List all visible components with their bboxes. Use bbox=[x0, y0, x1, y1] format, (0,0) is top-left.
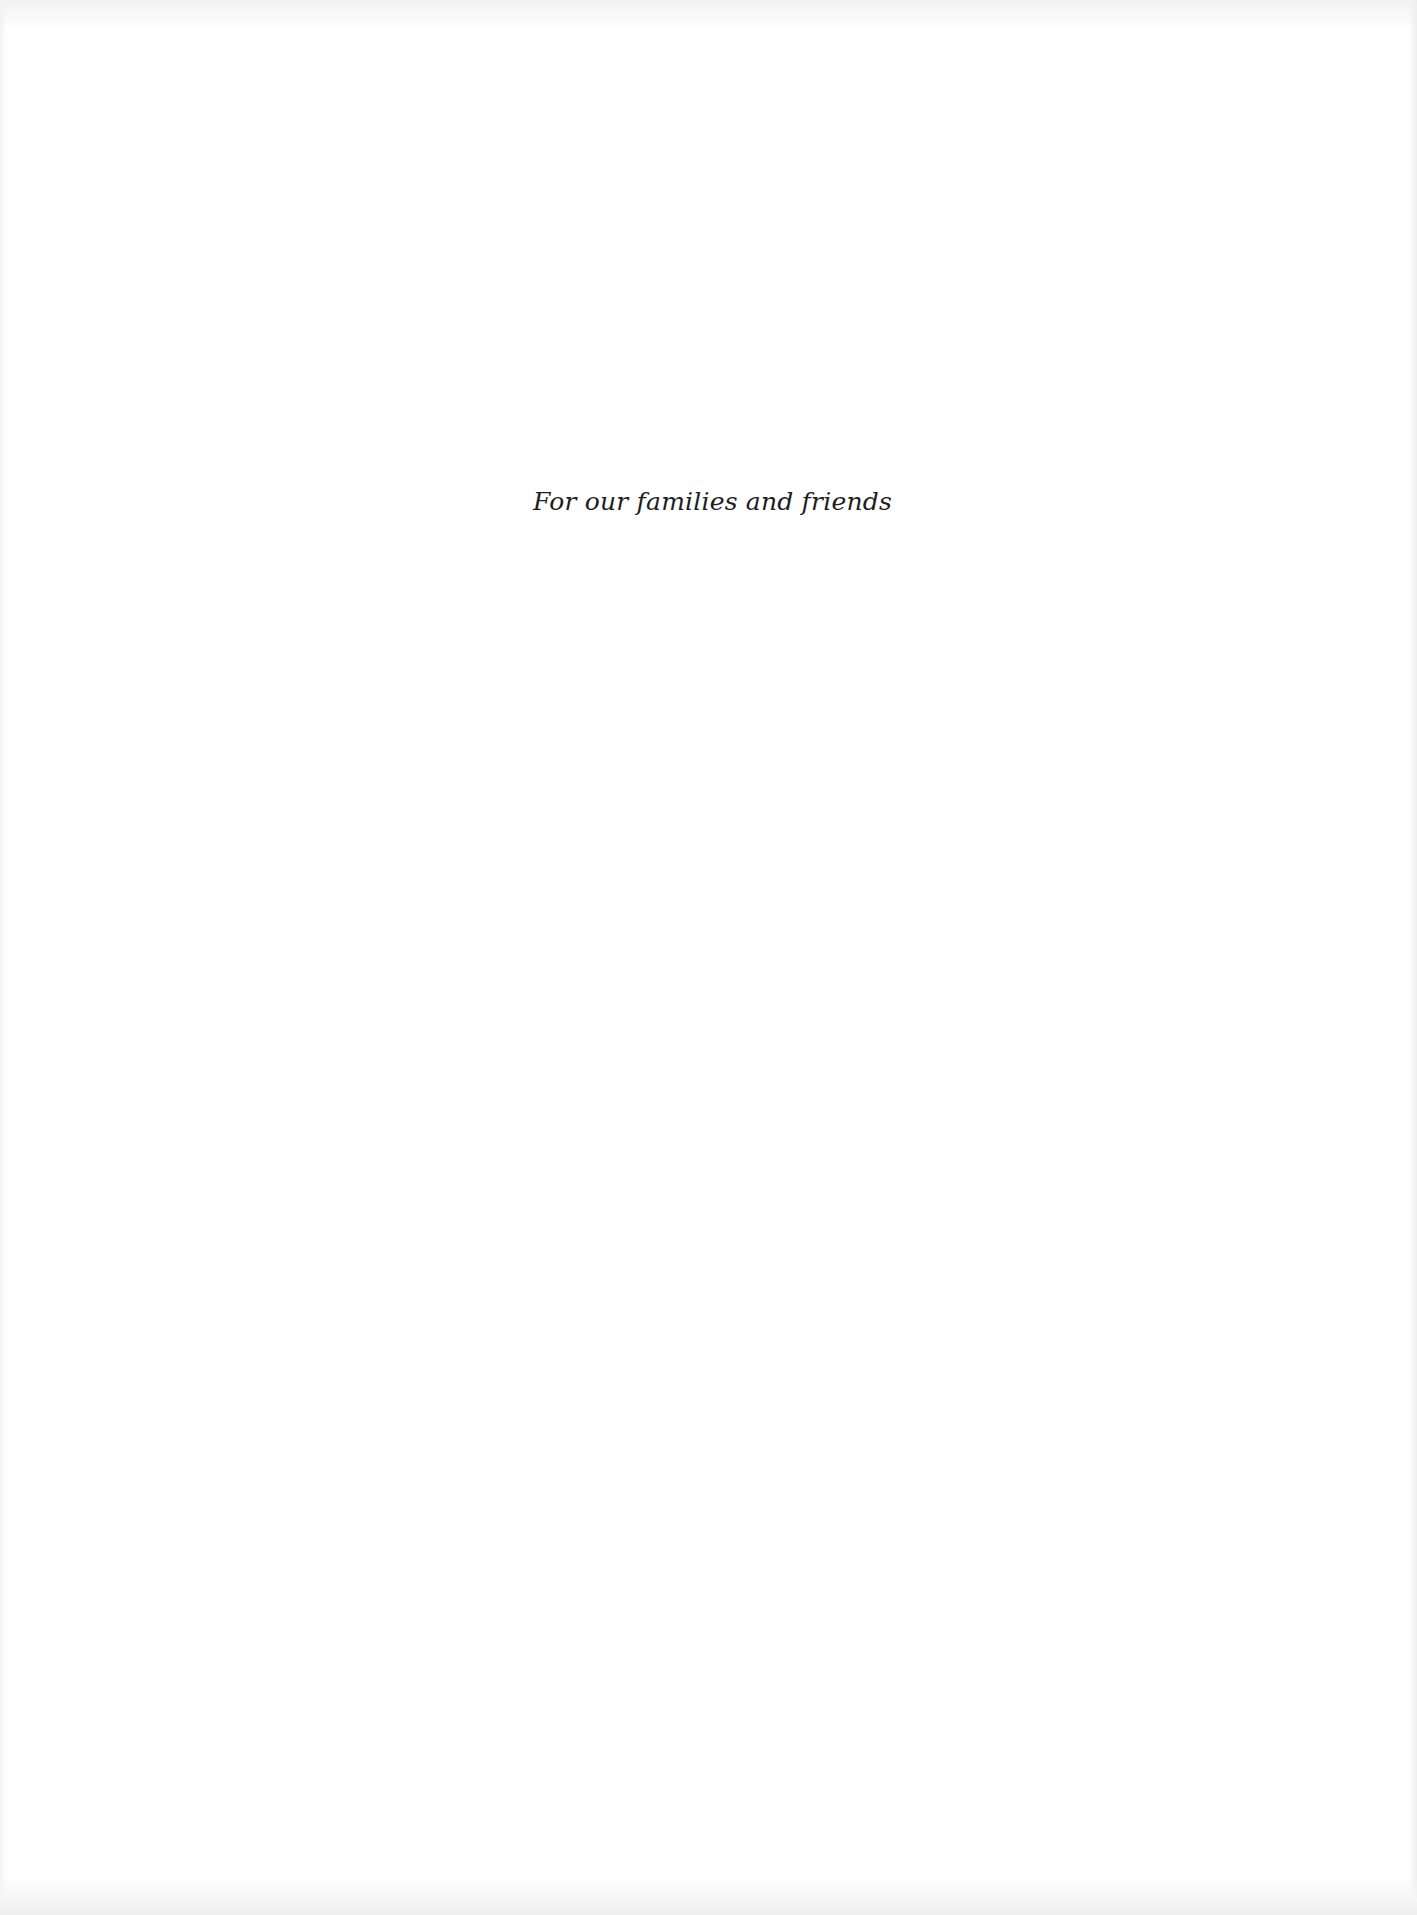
scan-edge-right bbox=[1409, 0, 1417, 1915]
scan-edge-left bbox=[0, 0, 6, 1915]
book-page: For our families and friends bbox=[0, 0, 1417, 1915]
scan-edge-top bbox=[0, 0, 1417, 30]
dedication-text: For our families and friends bbox=[0, 482, 1417, 522]
scan-edge-bottom bbox=[0, 1875, 1417, 1915]
